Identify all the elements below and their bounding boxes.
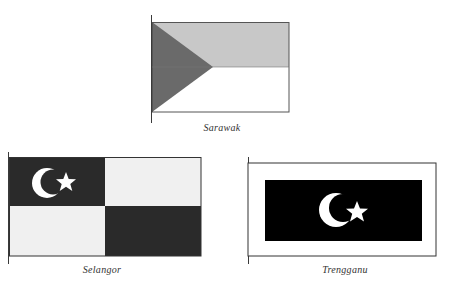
trengganu-flag <box>248 163 437 257</box>
trengganu-caption: Trengganu <box>295 264 395 275</box>
selangor-flag <box>9 157 202 257</box>
sarawak-flag <box>152 22 290 113</box>
selangor-caption: Selangor <box>52 264 152 275</box>
sarawak-caption: Sarawak <box>172 122 272 133</box>
